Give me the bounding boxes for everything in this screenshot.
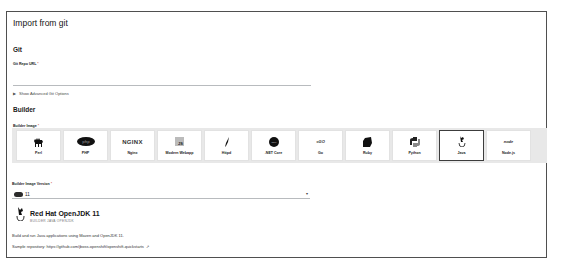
details-description: Build and run Java applications using Ma…	[12, 233, 124, 238]
nodejs-icon: node	[504, 137, 514, 147]
git-repo-url-input[interactable]	[13, 77, 311, 86]
sample-repo-label: Sample repository:	[12, 244, 45, 249]
details-tags: BUILDER JAVA OPENJDK	[30, 219, 100, 223]
builder-tile-nginx[interactable]: NGINX Nginx	[110, 130, 155, 161]
version-value: 11	[25, 192, 30, 197]
show-advanced-git-options-toggle[interactable]: ▶ Show Advanced Git Options	[13, 91, 69, 96]
tile-label: Node.js	[502, 151, 515, 155]
caret-down-icon: ▾	[306, 191, 308, 196]
ruby-icon	[363, 137, 372, 147]
external-link-icon[interactable]: ↗	[146, 245, 149, 249]
tile-label: Ruby	[363, 151, 372, 155]
builder-image-tiles-strip: Perl php PHP NGINX Nginx JS Modern Webap…	[12, 128, 547, 163]
builder-tile-modern-webapp[interactable]: JS Modern Webapp	[157, 130, 202, 161]
version-tag-icon	[14, 192, 23, 197]
builder-section-title: Builder	[13, 106, 35, 113]
details-text: Red Hat OpenJDK 11 BUILDER JAVA OPENJDK	[30, 210, 100, 223]
builder-image-details: Red Hat OpenJDK 11 BUILDER JAVA OPENJDK	[16, 207, 100, 225]
php-icon: php	[77, 137, 95, 147]
details-header: Red Hat OpenJDK 11 BUILDER JAVA OPENJDK	[16, 207, 100, 225]
builder-tile-ruby[interactable]: Ruby	[345, 130, 390, 161]
sample-repo-link[interactable]: https://github.com/jboss-openshift/opens…	[46, 244, 143, 249]
builder-tile-dotnet-core[interactable]: NET .NET Core	[251, 130, 296, 161]
page-title: Import from git	[13, 18, 68, 28]
builder-tile-perl[interactable]: Perl	[16, 130, 61, 161]
java-icon	[16, 207, 25, 225]
sample-repository: Sample repository: https://github.com/jb…	[12, 244, 149, 249]
java-icon	[458, 137, 466, 147]
tile-label: .NET Core	[265, 151, 282, 155]
python-icon	[410, 137, 420, 147]
go-icon: =GO	[316, 137, 325, 147]
nginx-icon: NGINX	[122, 137, 143, 147]
tile-label: Go	[318, 151, 323, 155]
git-section-title: Git	[13, 46, 22, 53]
builder-image-tiles: Perl php PHP NGINX Nginx JS Modern Webap…	[16, 130, 531, 161]
builder-tile-httpd[interactable]: Httpd	[204, 130, 249, 161]
required-marker: *	[51, 182, 52, 186]
tile-label: Httpd	[222, 151, 231, 155]
builder-tile-python[interactable]: Python	[392, 130, 437, 161]
tile-label: Java	[458, 151, 466, 155]
builder-tile-nodejs[interactable]: node Node.js	[486, 130, 531, 161]
builder-image-version-select[interactable]: 11 ▾	[12, 190, 310, 199]
tile-label: Nginx	[128, 151, 138, 155]
svg-text:NET: NET	[271, 141, 276, 144]
builder-image-version-label: Builder Image Version*	[12, 182, 52, 186]
builder-tile-java[interactable]: Java	[439, 130, 484, 161]
builder-image-version-label-text: Builder Image Version	[12, 182, 50, 186]
tile-label: Python	[408, 151, 420, 155]
dotnet-icon: NET	[269, 137, 279, 147]
tile-label: Perl	[35, 151, 42, 155]
feather-icon	[224, 137, 230, 147]
svg-text:php: php	[82, 139, 90, 144]
git-repo-url-label-text: Git Repo URL	[13, 62, 36, 66]
tile-label: Modern Webapp	[166, 151, 194, 155]
builder-tile-go[interactable]: =GO Go	[298, 130, 343, 161]
js-icon: JS	[175, 137, 184, 147]
builder-tile-php[interactable]: php PHP	[63, 130, 108, 161]
details-title: Red Hat OpenJDK 11	[30, 210, 100, 217]
tile-label: PHP	[82, 151, 89, 155]
camel-icon	[33, 137, 44, 147]
chevron-right-icon: ▶	[13, 92, 16, 96]
required-marker: *	[37, 62, 38, 66]
advanced-toggle-label: Show Advanced Git Options	[19, 91, 69, 96]
git-repo-url-label: Git Repo URL*	[13, 62, 39, 66]
